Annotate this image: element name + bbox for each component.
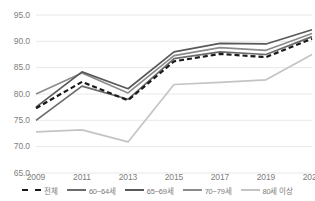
- legend-label: 70~79세: [205, 185, 232, 196]
- legend-item[interactable]: 65~69세: [125, 185, 174, 196]
- legend-label: 전체: [44, 185, 58, 196]
- legend-item[interactable]: 전체: [22, 185, 58, 196]
- legend-swatch-line-icon: [241, 189, 260, 191]
- x-axis-tick-label: 2015: [154, 172, 194, 182]
- legend-label: 65~69세: [147, 185, 174, 196]
- x-axis-tick-label: 2011: [62, 172, 102, 182]
- legend-item[interactable]: 60~64세: [67, 185, 116, 196]
- chart-plot-area: [0, 0, 315, 201]
- chart-legend: 전체60~64세65~69세70~79세80세 이상: [0, 183, 315, 197]
- y-axis-tick-label: 90.0: [0, 36, 30, 46]
- x-axis-tick-label: 2019: [246, 172, 286, 182]
- legend-swatch-line-icon: [67, 189, 86, 191]
- legend-item[interactable]: 70~79세: [183, 185, 232, 196]
- y-axis-tick-label: 85.0: [0, 62, 30, 72]
- legend-swatch-line-icon: [125, 189, 144, 191]
- x-axis-tick-label: 2021: [292, 172, 315, 182]
- line-chart: 95.090.085.080.075.070.065.0 20092011201…: [0, 0, 315, 201]
- y-axis-tick-label: 95.0: [0, 10, 30, 20]
- legend-label: 80세 이상: [263, 185, 293, 196]
- legend-label: 60~64세: [89, 185, 116, 196]
- legend-item[interactable]: 80세 이상: [241, 185, 293, 196]
- x-axis-tick-label: 2017: [200, 172, 240, 182]
- y-axis-tick-label: 75.0: [0, 115, 30, 125]
- legend-swatch-line-icon: [183, 189, 202, 191]
- y-axis-tick-label: 70.0: [0, 141, 30, 151]
- legend-swatch-line-icon: [22, 189, 41, 191]
- y-axis-tick-label: 80.0: [0, 89, 30, 99]
- x-axis-tick-label: 2013: [108, 172, 148, 182]
- x-axis-tick-label: 2009: [16, 172, 56, 182]
